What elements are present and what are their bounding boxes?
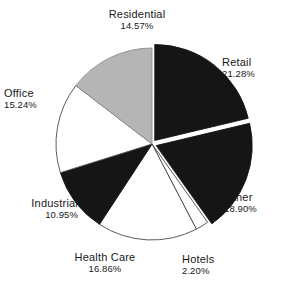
- pie-label-health-care-value: 16.86%: [57, 264, 153, 274]
- pie-label-office-value: 15.24%: [4, 100, 70, 110]
- pie-label-retail: Retail 21.28%: [222, 57, 290, 79]
- pie-label-hotels-value: 2.20%: [182, 266, 242, 276]
- pie-label-office: Office 15.24%: [4, 88, 70, 110]
- pie-label-industrial-value: 10.95%: [4, 210, 78, 220]
- pie-label-retail-value: 21.28%: [222, 69, 290, 79]
- pie-label-other: Other 18.90%: [224, 192, 290, 214]
- pie-chart-svg: [0, 0, 291, 288]
- pie-label-residential: Residential 14.57%: [85, 9, 189, 31]
- pie-label-hotels: Hotels 2.20%: [182, 254, 242, 276]
- pie-label-other-value: 18.90%: [224, 204, 290, 214]
- pie-label-residential-value: 14.57%: [85, 21, 189, 31]
- pie-chart: Residential 14.57% Retail 21.28% Other 1…: [0, 0, 291, 288]
- pie-label-health-care: Health Care 16.86%: [57, 252, 153, 274]
- pie-label-industrial: Industrial 10.95%: [4, 198, 78, 220]
